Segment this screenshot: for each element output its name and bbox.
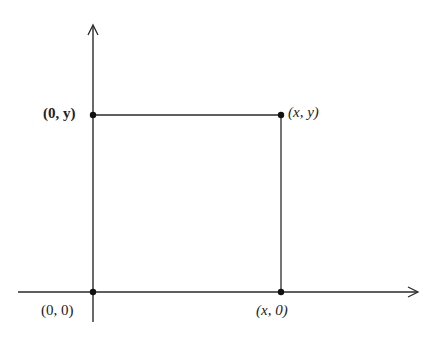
diagram-canvas [0, 0, 444, 337]
point-x0 [278, 289, 284, 295]
label-0y: (0, y) [43, 105, 76, 122]
point-origin [90, 289, 96, 295]
label-x0: (x, 0) [256, 302, 288, 319]
point-0y [90, 112, 96, 118]
label-xy: (x, y) [288, 104, 319, 121]
coordinate-diagram: (0, y) (x, y) (0, 0) (x, 0) [0, 0, 444, 337]
point-xy [278, 112, 284, 118]
label-origin: (0, 0) [41, 302, 74, 319]
